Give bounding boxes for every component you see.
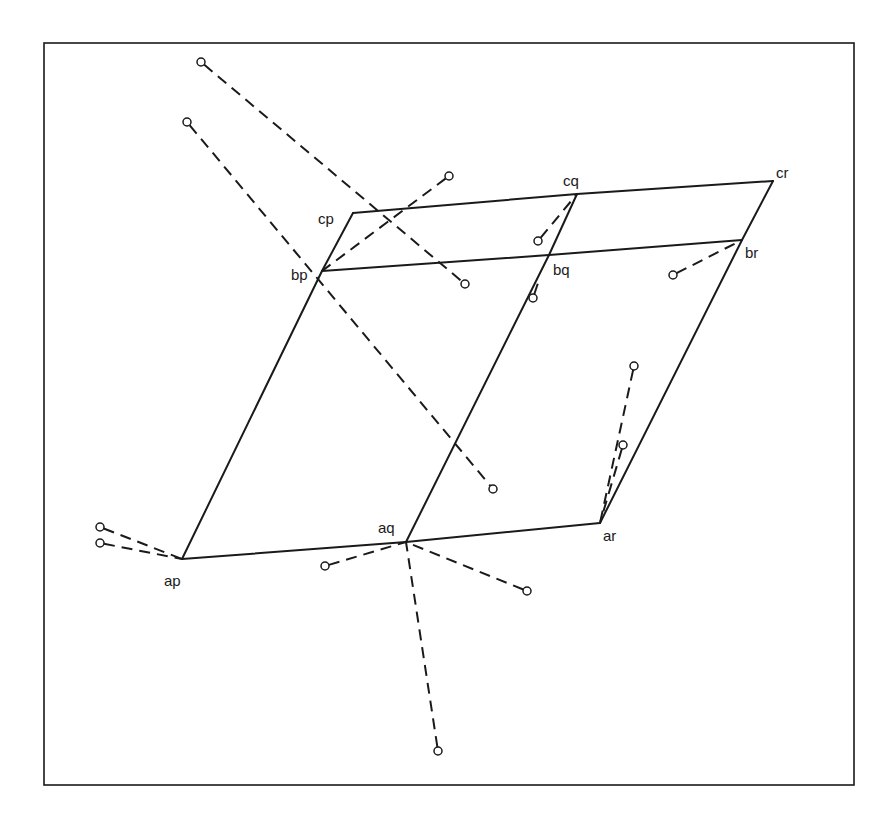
- node-label-cp: cp: [318, 210, 334, 227]
- edge-ap-aq: [182, 542, 406, 559]
- node-label-bq: bq: [553, 261, 570, 278]
- node-labels: apaqarbpbqbrcpcqcr: [164, 164, 789, 589]
- edge-ap-bp: [182, 271, 322, 559]
- node-label-aq: aq: [378, 519, 395, 536]
- node-label-bp: bp: [291, 266, 308, 283]
- endpoint-circle-icon: [434, 747, 442, 755]
- edge-bq-br: [549, 240, 742, 255]
- endpoint-circle-icon: [197, 58, 205, 66]
- dashed-connector: [322, 178, 446, 271]
- endpoint-circle-icon: [523, 587, 531, 595]
- edge-aq-ar: [406, 523, 600, 542]
- edge-cp-cq: [353, 194, 577, 213]
- dashed-connector: [406, 542, 437, 747]
- edge-aq-bq: [406, 255, 549, 542]
- endpoint-circle-icon: [445, 172, 453, 180]
- dashed-connectors: [96, 58, 742, 755]
- dashed-connector: [600, 370, 633, 523]
- edge-bq-cq: [549, 194, 577, 255]
- endpoint-circle-icon: [630, 362, 638, 370]
- endpoint-circle-icon: [529, 294, 537, 302]
- endpoint-circle-icon: [534, 237, 542, 245]
- solid-edges: [182, 181, 773, 559]
- node-label-br: br: [745, 244, 758, 261]
- node-label-ar: ar: [603, 527, 616, 544]
- edge-br-cr: [742, 181, 773, 240]
- endpoint-circle-icon: [461, 280, 469, 288]
- diagram-frame: [44, 43, 854, 785]
- endpoint-circle-icon: [96, 539, 104, 547]
- endpoint-circle-icon: [669, 271, 677, 279]
- dashed-connector: [406, 542, 523, 589]
- node-label-cr: cr: [776, 164, 789, 181]
- node-label-ap: ap: [164, 572, 181, 589]
- edge-bp-bq: [322, 255, 549, 271]
- endpoint-circle-icon: [619, 441, 627, 449]
- dashed-connector: [104, 528, 182, 559]
- endpoint-circle-icon: [489, 485, 497, 493]
- endpoint-circle-icon: [183, 118, 191, 126]
- parallelogram-grid-diagram: apaqarbpbqbrcpcqcr: [0, 0, 895, 822]
- dashed-connector: [104, 544, 182, 559]
- edge-cq-cr: [577, 181, 773, 194]
- edge-ar-br: [600, 240, 742, 523]
- endpoint-circle-icon: [321, 562, 329, 570]
- node-label-cq: cq: [563, 172, 579, 189]
- endpoint-circle-icon: [96, 523, 104, 531]
